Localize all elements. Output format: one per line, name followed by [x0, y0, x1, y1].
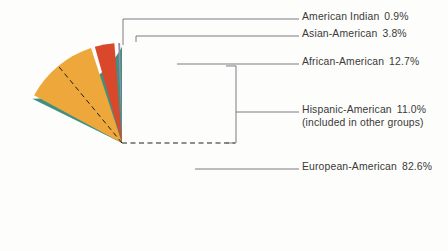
callout-african-american[interactable]: African-American12.7%: [302, 56, 419, 69]
callout-value-american-indian: 0.9%: [384, 11, 408, 22]
leader-line-american-indian: [123, 19, 299, 45]
pie-gap-top-right: [122, 41, 212, 143]
callout-hispanic-american[interactable]: Hispanic-American11.0% (included in othe…: [302, 104, 426, 129]
callout-label-african-american: African-American: [302, 56, 384, 67]
callout-label-asian-american: Asian-American: [302, 28, 377, 39]
callout-asian-american[interactable]: Asian-American3.8%: [302, 28, 407, 41]
callout-value-asian-american: 3.8%: [382, 28, 406, 39]
callout-note-hispanic-american: (included in other groups): [302, 117, 426, 130]
callout-value-european-american: 82.6%: [402, 161, 432, 172]
bracket-hispanic-american: [226, 66, 236, 143]
pie-chart-figure: American Indian0.9% Asian-American3.8% A…: [0, 0, 448, 251]
callout-american-indian[interactable]: American Indian0.9%: [302, 11, 409, 24]
leader-line-asian-american: [136, 36, 299, 42]
callout-label-american-indian: American Indian: [302, 11, 379, 22]
callout-value-hispanic-american: 11.0%: [397, 104, 426, 115]
callout-value-african-american: 12.7%: [389, 56, 419, 67]
callout-european-american[interactable]: European-American82.6%: [302, 161, 432, 174]
callout-label-hispanic-american: Hispanic-American: [302, 104, 392, 115]
callout-label-european-american: European-American: [302, 161, 397, 172]
